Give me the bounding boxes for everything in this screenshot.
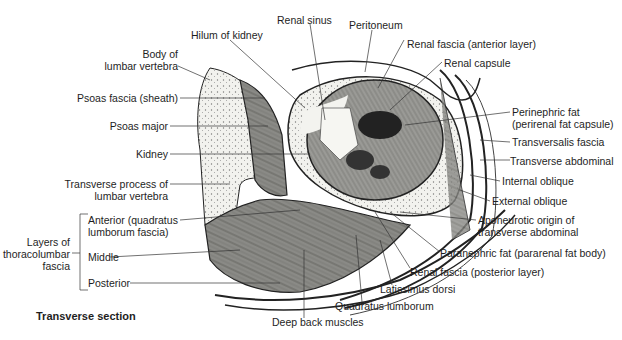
label-psoas-major: Psoas major (80, 120, 168, 132)
label-middle: Middle (88, 251, 119, 263)
label-transversalis: Transversalis fascia (512, 136, 604, 148)
label-layers-3: fascia (0, 260, 70, 272)
label-renal-sinus: Renal sinus (277, 14, 332, 26)
label-anterior-1: Anterior (quadratus (88, 214, 178, 226)
label-peritoneum: Peritoneum (349, 19, 403, 31)
label-quadratus: Quadratus lumborum (335, 300, 434, 312)
label-aponeurotic-2: transverse abdominal (478, 226, 578, 238)
label-latissimus: Latissimus dorsi (380, 283, 455, 295)
label-perinephric-2: (perirenal fat capsule) (512, 118, 614, 130)
label-transverse-abdominal: Transverse abdominal (510, 155, 614, 167)
label-perinephric-1: Perinephric fat (512, 106, 580, 118)
label-hilum: Hilum of kidney (191, 29, 263, 41)
label-kidney: Kidney (100, 148, 168, 160)
label-transverse-process-2: lumbar vertebra (30, 190, 168, 202)
figure-caption: Transverse section (36, 310, 136, 322)
label-paranephric: Paranephric fat (pararenal fat body) (440, 247, 606, 259)
label-psoas-fascia: Psoas fascia (sheath) (60, 92, 178, 104)
label-aponeurotic-1: Aponeurotic origin of (478, 214, 574, 226)
label-body-vertebra-1: Body of (90, 48, 178, 60)
label-deep-back: Deep back muscles (272, 316, 364, 328)
label-renal-capsule: Renal capsule (444, 57, 511, 69)
label-internal-oblique: Internal oblique (502, 175, 574, 187)
label-layers-1: Layers of (0, 236, 70, 248)
label-body-vertebra-2: lumbar vertebra (90, 60, 178, 72)
label-transverse-process-1: Transverse process of (30, 178, 168, 190)
label-layers-2: thoracolumbar (0, 248, 70, 260)
label-renal-fascia-posterior: Renal fascia (posterior layer) (410, 266, 544, 278)
label-renal-fascia-anterior: Renal fascia (anterior layer) (407, 38, 536, 50)
label-anterior-2: lumborum fascia) (88, 226, 169, 238)
label-external-oblique: External oblique (492, 195, 567, 207)
label-posterior: Posterior (88, 277, 130, 289)
